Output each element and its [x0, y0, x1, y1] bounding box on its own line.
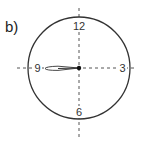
number-12: 12: [73, 20, 85, 32]
number-6: 6: [76, 106, 82, 118]
clock-diagram: 12 3 6 9: [0, 0, 146, 147]
number-9: 9: [34, 62, 40, 74]
number-3: 3: [119, 62, 125, 74]
center-pivot: [77, 66, 81, 70]
